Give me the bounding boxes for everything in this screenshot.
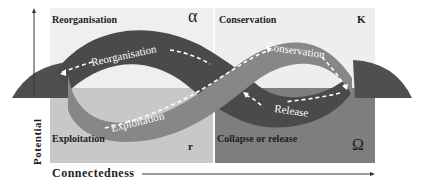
diagram-graphic: Reorganisation Conservation Exploitation… — [0, 0, 424, 187]
quadrant-label-reorganisation: Reorganisation — [52, 14, 117, 25]
x-axis-arrowhead — [370, 172, 375, 176]
right-lobe — [353, 60, 412, 98]
quadrant-label-collapse-or-release: Collapse or release — [217, 133, 297, 144]
y-axis-arrowhead — [32, 8, 36, 13]
quadrant-label-exploitation: Exploitation — [52, 133, 105, 144]
k-symbol: K — [357, 13, 366, 25]
quadrant-label-conservation: Conservation — [219, 14, 276, 25]
omega-symbol: Ω — [352, 136, 364, 154]
alpha-symbol: α — [188, 6, 197, 27]
y-axis-label: Potential — [31, 118, 43, 165]
r-symbol: r — [188, 140, 193, 152]
x-axis-label: Connectedness — [52, 166, 135, 181]
adaptive-cycle-diagram: Reorganisation Conservation Exploitation… — [0, 0, 424, 187]
